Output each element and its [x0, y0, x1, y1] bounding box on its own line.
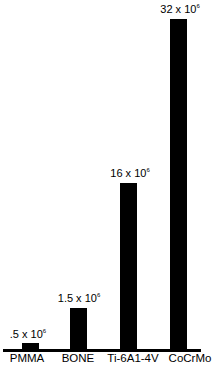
bar-bone	[70, 308, 87, 350]
value-label-pmma: .5 x 106	[10, 328, 46, 340]
category-label-cocrmo: CoCrMo	[169, 352, 212, 364]
bar-ti-6al-4v	[120, 183, 137, 350]
bar-cocrmo	[170, 19, 187, 350]
category-label-ti-6al-4v: Ti-6A1-4V	[107, 352, 158, 364]
value-label-ti-6al-4v: 16 x 106	[110, 167, 149, 179]
bar-pmma	[22, 343, 39, 350]
value-label-cocrmo: 32 x 106	[160, 3, 199, 15]
category-label-pmma: PMMA	[10, 352, 45, 364]
value-label-bone: 1.5 x 106	[58, 292, 100, 304]
category-label-bone: BONE	[62, 352, 95, 364]
